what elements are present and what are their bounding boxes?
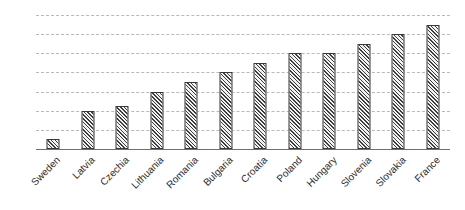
bar [81,111,94,149]
bar-slot [416,10,451,149]
bar-slot [381,10,416,149]
bar [392,34,405,149]
bar [288,53,301,149]
x-label-slot: Sweden [36,152,71,210]
bar [357,44,370,149]
x-tick-label: Latvia [71,155,97,181]
x-axis-line [36,149,450,150]
x-tick-label: Poland [275,155,304,184]
bar [185,82,198,149]
bar-slot [347,10,382,149]
bar-slot [36,10,71,149]
x-tick-label: Sweden [30,155,63,188]
bar [116,106,129,149]
bar [254,63,267,149]
bar-slot [105,10,140,149]
bar [47,139,60,149]
bar-slot [71,10,106,149]
bar [426,25,439,149]
x-label-slot: Croatia [243,152,278,210]
bar-slot [312,10,347,149]
bar [150,92,163,149]
x-label-slot: France [416,152,451,210]
x-label-slot: Bulgaria [209,152,244,210]
bar-slot [174,10,209,149]
bar-slot [243,10,278,149]
x-tick-label: France [413,155,442,184]
x-label-slot: Slovakia [381,152,416,210]
bar-slot [209,10,244,149]
bar [323,53,336,149]
bar [219,72,232,149]
x-tick-label: Croatia [240,155,270,185]
bar-series [36,10,450,149]
x-axis-tick-labels: SwedenLatviaCzechiaLithuaniaRomaniaBulga… [36,152,450,210]
bar-slot [140,10,175,149]
bar-slot [278,10,313,149]
plot-area: 02468101214 [36,10,450,154]
bar-chart: 02468101214 SwedenLatviaCzechiaLithuania… [0,0,465,210]
